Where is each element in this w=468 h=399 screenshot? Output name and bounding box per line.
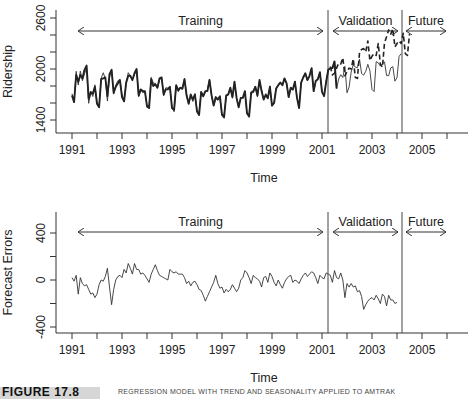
x-tick-label: 2001	[309, 343, 336, 357]
x-axis-title: Time	[250, 371, 277, 385]
y-tick-label: 0	[34, 276, 48, 283]
period-label-future: Future	[408, 215, 444, 229]
period-label-training: Training	[178, 14, 223, 28]
y-tick-label: 1400	[34, 106, 48, 133]
x-tick-label: 2005	[409, 143, 436, 157]
chart-canvas: 1400200026001991199319951997199920012003…	[0, 0, 468, 399]
series-fitted-forecast-training-	[72, 61, 337, 117]
x-axis-title: Time	[250, 171, 277, 185]
figure-caption: REGRESSION MODEL WITH TREND AND SEASONAL…	[118, 388, 395, 399]
x-tick-label: 1999	[259, 143, 286, 157]
period-label-training: Training	[178, 215, 223, 229]
x-tick-label: 1997	[209, 143, 236, 157]
period-label-validation: Validation	[339, 215, 393, 229]
ridership-plot: 1400200026001991199319951997199920012003…	[1, 4, 468, 185]
x-tick-label: 1999	[259, 343, 286, 357]
x-tick-label: 1991	[59, 343, 86, 357]
y-tick-label: 2600	[34, 4, 48, 31]
x-tick-label: 1993	[109, 343, 136, 357]
x-tick-label: 2003	[359, 343, 386, 357]
figure-label: FIGURE 17.8	[2, 385, 80, 399]
x-tick-label: 2001	[309, 143, 336, 157]
y-tick-label: 400	[34, 223, 48, 243]
period-label-future: Future	[408, 14, 444, 28]
y-tick-label: -400	[34, 315, 48, 339]
forecast-errors-plot: -400040019911993199519971999200120032005…	[1, 212, 468, 385]
x-tick-label: 1991	[59, 143, 86, 157]
x-tick-label: 1995	[159, 343, 186, 357]
y-axis-title: Forecast Errors	[1, 229, 15, 315]
period-label-validation: Validation	[339, 14, 393, 28]
y-tick-label: 2000	[34, 55, 48, 82]
x-tick-label: 1997	[209, 343, 236, 357]
y-axis-title: Ridership	[1, 45, 15, 98]
x-tick-label: 2005	[409, 343, 436, 357]
x-tick-label: 1995	[159, 143, 186, 157]
x-tick-label: 2003	[359, 143, 386, 157]
x-tick-label: 1993	[109, 143, 136, 157]
series-forecast-errors	[72, 264, 397, 310]
